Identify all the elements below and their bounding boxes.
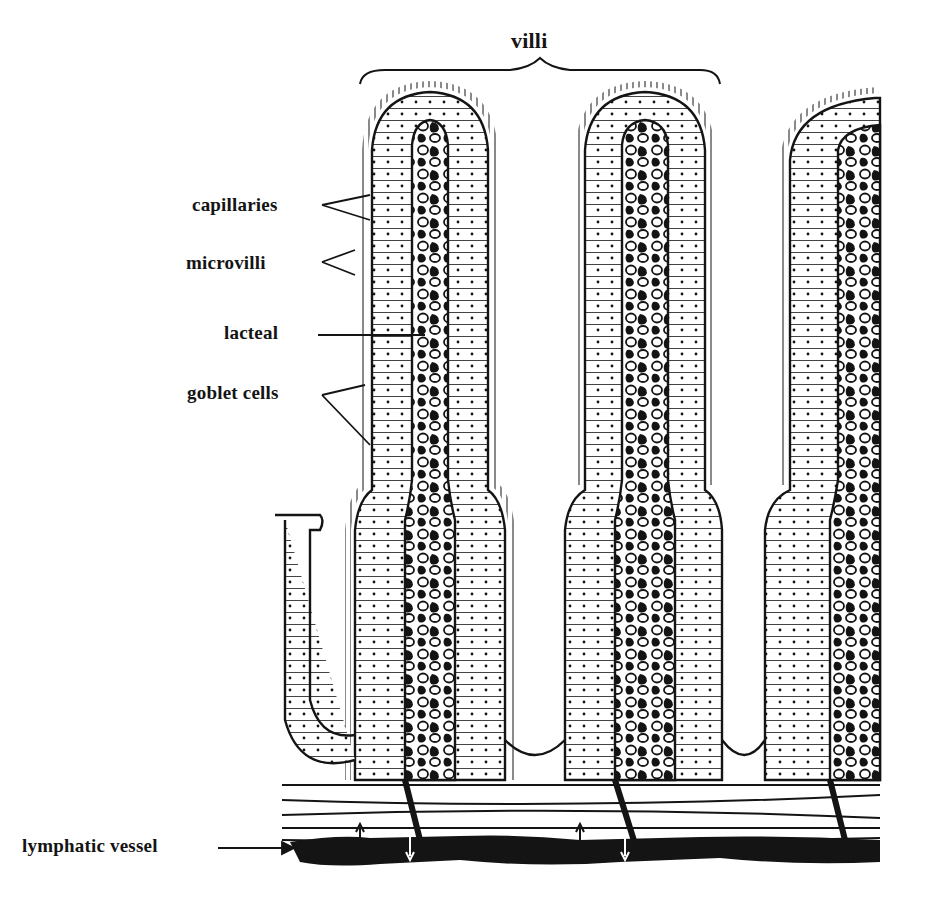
- villi-brace: [360, 58, 720, 84]
- villus-1: [348, 84, 512, 780]
- villus-3: [765, 90, 880, 780]
- label-villi: villi: [511, 28, 547, 54]
- label-lacteal: lacteal: [224, 322, 278, 344]
- villus-2: [565, 84, 722, 780]
- label-capillaries: capillaries: [192, 194, 278, 216]
- lymphatic-vessel-shape: [290, 824, 880, 866]
- villi-illustration: [0, 0, 929, 923]
- label-goblet-cells: goblet cells: [187, 382, 279, 404]
- label-microvilli: microvilli: [186, 252, 266, 274]
- label-lymphatic-vessel: lymphatic vessel: [22, 835, 158, 857]
